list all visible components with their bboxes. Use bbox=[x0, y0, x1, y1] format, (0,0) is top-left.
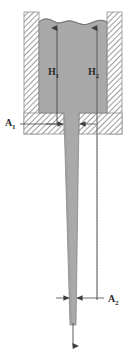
a2-label-subscript: 2 bbox=[115, 299, 119, 307]
vessel-base-right bbox=[79, 113, 122, 134]
h2-label-subscript: 2 bbox=[96, 72, 100, 80]
h1-label-subscript: 1 bbox=[56, 72, 60, 80]
physics-diagram-svg: H 1 H 2 A 1 A 2 bbox=[0, 0, 135, 359]
figure-container: H 1 H 2 A 1 A 2 bbox=[0, 0, 135, 359]
vessel-base-left bbox=[24, 113, 64, 134]
a1-label-subscript: 1 bbox=[12, 123, 16, 131]
